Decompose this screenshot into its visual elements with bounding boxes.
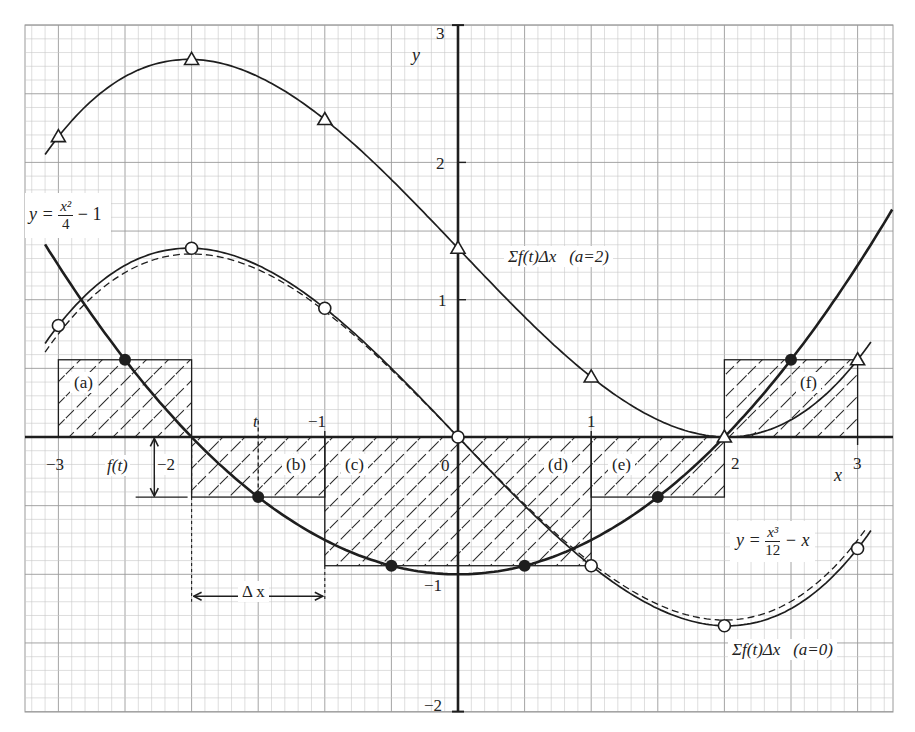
- delta-x-label: Δ x: [238, 581, 269, 602]
- rect-label-f: (f): [796, 372, 821, 393]
- sum-a0-label: Σf(t)Δx (a=0): [728, 639, 837, 660]
- filled-circle-marker: [119, 354, 131, 366]
- x-tick-minus-3: −3: [46, 456, 64, 473]
- open-circle-marker: [718, 620, 730, 632]
- parabola-numerator: x²: [58, 199, 73, 216]
- cubic-lhs: y =: [736, 530, 761, 550]
- open-circle-marker: [52, 319, 64, 331]
- y-tick-2: 2: [436, 155, 445, 172]
- cubic-equation-label: y = x³ 12 − x: [730, 521, 815, 562]
- cubic-fraction: x³ 12: [765, 525, 780, 558]
- filled-circle-marker: [252, 491, 264, 503]
- parabola-fraction: x² 4: [58, 199, 73, 232]
- sum-a2-label: Σf(t)Δx (a=2): [504, 246, 613, 267]
- cubic-numerator: x³: [765, 525, 780, 542]
- filled-circle-marker: [785, 354, 797, 366]
- rect-label-e: (e): [608, 454, 635, 475]
- chart-canvas: [0, 0, 915, 732]
- x-tick-minus-1: −1: [308, 413, 326, 430]
- open-circle-marker: [452, 431, 464, 443]
- x-tick-minus-2: −2: [155, 454, 177, 475]
- parabola-rhs: − 1: [78, 204, 102, 224]
- x-tick-0: 0: [441, 457, 450, 474]
- x-tick-1: 1: [587, 413, 596, 430]
- open-circle-marker: [186, 242, 198, 254]
- x-tick-2: 2: [731, 455, 740, 472]
- y-axis-label: y: [412, 46, 420, 64]
- cubic-rhs: − x: [785, 530, 810, 550]
- rect-label-b: (b): [282, 454, 310, 475]
- y-tick-minus-2: −2: [424, 697, 442, 714]
- rect-label-c: (c): [341, 454, 368, 475]
- y-tick-1: 1: [438, 292, 447, 309]
- rect-label-d: (d): [544, 454, 572, 475]
- x-axis-label: x: [834, 466, 842, 484]
- parabola-denominator: 4: [58, 216, 73, 232]
- y-tick-3: 3: [436, 25, 445, 42]
- cubic-denominator: 12: [765, 542, 780, 558]
- parabola-lhs: y =: [29, 204, 54, 224]
- riemann-rect: [724, 360, 857, 437]
- open-circle-marker: [319, 302, 331, 314]
- parabola-equation-label: y = x² 4 − 1: [25, 193, 111, 238]
- open-circle-marker: [852, 543, 864, 555]
- open-circle-marker: [585, 560, 597, 572]
- t-label: t: [253, 413, 258, 430]
- filled-circle-marker: [519, 560, 531, 572]
- filled-circle-marker: [385, 560, 397, 572]
- y-tick-minus-1: −1: [424, 577, 442, 594]
- x-tick-3: 3: [853, 455, 862, 472]
- rect-label-a: (a): [70, 372, 97, 393]
- filled-circle-marker: [652, 491, 664, 503]
- ft-label: f(t): [105, 455, 130, 476]
